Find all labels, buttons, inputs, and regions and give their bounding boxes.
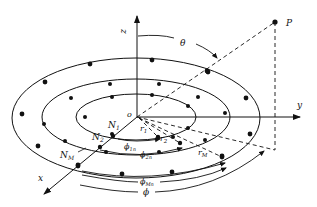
r2-label: r2: [160, 134, 168, 144]
point-p: [272, 19, 277, 24]
radius-rM: [139, 118, 222, 157]
phi-2n-label: ϕ2n: [140, 150, 152, 160]
z-axis-label: z: [119, 28, 129, 34]
theta-label: θ: [180, 38, 186, 48]
phi-arc: [80, 185, 138, 192]
x-axis-label: x: [38, 173, 43, 183]
rM-label: rM: [198, 148, 208, 158]
ring-2-elements: [42, 82, 227, 154]
ring-M-label: NM: [59, 150, 75, 161]
origin-label: o: [127, 110, 132, 119]
p-ground-projection: [137, 117, 275, 150]
ring-1-label: N1: [107, 120, 120, 131]
theta-arc: [138, 35, 174, 38]
phi-1n-label: ϕ1n: [124, 142, 136, 152]
x-axis: [44, 117, 137, 194]
ring-2-label: N2: [91, 132, 104, 143]
point-p-label: P: [285, 18, 293, 28]
phi-label: ϕ: [143, 187, 149, 197]
phi-Mn-label: ϕMn: [140, 177, 154, 187]
y-axis-label: y: [296, 100, 303, 110]
array-geometry-diagram: z y x o P θ N1 N2 NM r1 r2 rM ϕ1n ϕ2n ϕM…: [0, 0, 317, 207]
phi-Mn-arc: [82, 163, 225, 176]
